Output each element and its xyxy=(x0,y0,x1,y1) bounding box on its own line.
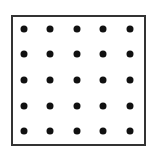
grid-dot xyxy=(127,26,134,33)
grid-dot xyxy=(47,128,54,135)
grid-dot xyxy=(127,77,134,84)
grid-dot xyxy=(47,77,54,84)
grid-dot xyxy=(74,77,81,84)
grid-dot xyxy=(100,77,107,84)
grid-dot xyxy=(127,128,134,135)
grid-dot xyxy=(127,51,134,58)
grid-dot xyxy=(127,103,134,110)
grid-dot xyxy=(100,51,107,58)
grid-dot xyxy=(74,128,81,135)
grid-dot xyxy=(74,103,81,110)
grid-dot xyxy=(21,128,28,135)
grid-dot xyxy=(100,26,107,33)
grid-dot xyxy=(100,103,107,110)
grid-dot xyxy=(74,51,81,58)
grid-dot xyxy=(47,51,54,58)
grid-dot xyxy=(21,51,28,58)
grid-dot xyxy=(21,26,28,33)
grid-dot xyxy=(100,128,107,135)
grid-dot xyxy=(47,103,54,110)
grid-dot xyxy=(21,77,28,84)
grid-dot xyxy=(74,26,81,33)
grid-dot xyxy=(21,103,28,110)
grid-dot xyxy=(47,26,54,33)
